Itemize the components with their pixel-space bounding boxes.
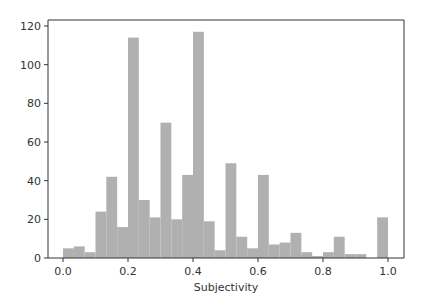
histogram-bar: [171, 219, 182, 258]
y-tick-label: 40: [27, 175, 41, 188]
histogram-bar: [334, 237, 345, 258]
histogram-bar: [356, 254, 367, 258]
histogram-bar: [106, 177, 117, 258]
x-axis-label: Subjectivity: [194, 281, 259, 294]
x-tick-label: 0.4: [184, 265, 202, 278]
histogram-bar: [269, 244, 280, 258]
histogram-bar: [182, 175, 193, 258]
histogram-bar: [117, 227, 128, 258]
y-tick-label: 100: [20, 59, 41, 72]
histogram-bars: [63, 32, 388, 258]
histogram-bar: [377, 217, 388, 258]
histogram-bar: [323, 252, 334, 258]
histogram-bar: [291, 233, 302, 258]
x-tick-label: 0.6: [249, 265, 267, 278]
histogram-bar: [85, 252, 96, 258]
histogram-bar: [280, 243, 291, 258]
y-axis-ticks: 020406080100120: [20, 20, 48, 265]
histogram-bar: [236, 237, 247, 258]
histogram-bar: [301, 252, 312, 258]
histogram-bar: [193, 32, 204, 258]
x-tick-label: 1.0: [379, 265, 397, 278]
histogram-bar: [96, 212, 107, 258]
histogram-bar: [161, 123, 172, 258]
x-tick-label: 0.2: [119, 265, 137, 278]
histogram-chart: 0.00.20.40.60.81.0 020406080100120 Subje…: [0, 0, 423, 305]
histogram-bar: [139, 200, 150, 258]
x-tick-label: 0.8: [314, 265, 332, 278]
y-tick-label: 80: [27, 97, 41, 110]
histogram-bar: [74, 246, 85, 258]
histogram-bar: [150, 217, 161, 258]
histogram-bar: [226, 163, 237, 258]
x-axis-ticks: 0.00.20.40.60.81.0: [54, 258, 397, 278]
histogram-bar: [258, 175, 269, 258]
histogram-bar: [63, 248, 74, 258]
y-tick-label: 0: [34, 252, 41, 265]
histogram-bar: [128, 38, 139, 258]
histogram-bar: [215, 250, 226, 258]
y-tick-label: 20: [27, 213, 41, 226]
histogram-bar: [247, 248, 258, 258]
histogram-bar: [204, 221, 215, 258]
x-tick-label: 0.0: [54, 265, 72, 278]
y-tick-label: 60: [27, 136, 41, 149]
y-tick-label: 120: [20, 20, 41, 33]
histogram-bar: [345, 254, 356, 258]
